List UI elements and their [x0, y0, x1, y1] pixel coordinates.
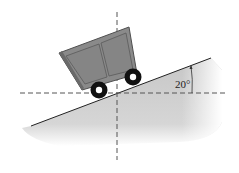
- incline-diagram: 20°: [0, 0, 239, 173]
- wheel-front: [125, 69, 142, 86]
- angle-label: 20°: [175, 78, 190, 90]
- cart: [59, 27, 142, 99]
- wheel-rear: [91, 82, 108, 99]
- diagram-canvas: 20°: [0, 0, 239, 173]
